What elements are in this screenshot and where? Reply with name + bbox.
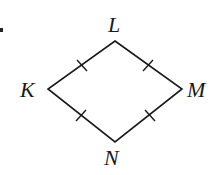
vertex-label-k: K [20, 79, 35, 101]
vertex-label-l: L [108, 14, 120, 36]
vertex-label-n: N [104, 147, 119, 169]
rhombus-klmn [48, 41, 182, 142]
vertex-label-m: M [187, 79, 205, 101]
